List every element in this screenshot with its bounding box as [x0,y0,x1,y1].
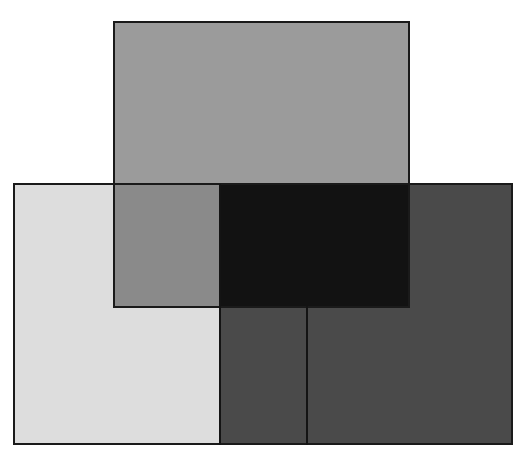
overlap-top-dark-region [220,184,410,306]
bottom-left-light-region [13,184,113,445]
top-rectangle-upper-region [113,21,410,184]
bottom-center-dark-region [220,306,410,445]
bottom-left-light-lower-region [113,306,220,445]
overlap-top-light-region [113,184,220,306]
bottom-right-dark-region [410,184,513,445]
